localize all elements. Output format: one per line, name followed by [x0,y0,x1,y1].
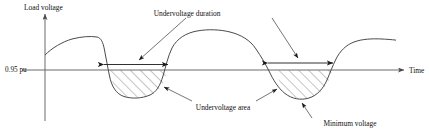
annotation-minimum-voltage: Minimum voltage [323,119,377,128]
leader-area-left [164,87,192,101]
y-axis-label: Load voltage [24,3,64,12]
leader-area-right [256,89,277,101]
leader-duration-right [272,18,298,58]
x-axis-label: Time [409,66,425,75]
annotation-undervoltage-area: Undervoltage area [196,103,251,112]
leader-minimum-voltage [302,103,312,118]
undervoltage-diagram: Load voltage Time 0.95 pu Undervoltage d… [0,0,429,131]
annotation-undervoltage-duration: Undervoltage duration [154,9,221,18]
load-voltage-curve [45,30,396,99]
threshold-tick-label: 0.95 pu [5,66,27,74]
